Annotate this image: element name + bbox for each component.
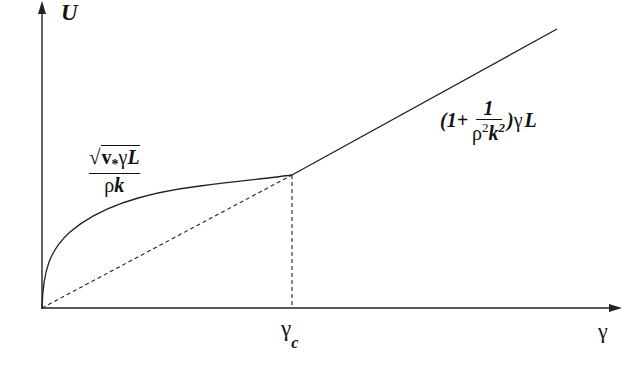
sqrt-radicand: v*γL [101,145,140,168]
y-axis-arrow-icon [38,1,46,14]
sqrt-branch-annotation: √v*γL ρk [89,146,140,196]
linear-denominator: ρ2k2 [472,120,505,144]
sqrt-numerator: √v*γL [89,146,140,173]
x-axis-arrow-icon [609,304,622,312]
linear-numerator: 1 [476,98,502,120]
x-axis-label: γ [598,318,608,344]
y-axis-label: U [61,0,78,26]
gamma-c-subscript: c [291,334,298,351]
gamma-c-symbol: γ [281,316,291,341]
linear-fraction: 1 ρ2k2 [472,98,505,144]
sqrt-denominator: ρk [104,174,124,196]
sqrt-radical-icon: √ [89,145,101,169]
gamma-c-label: γc [281,316,298,346]
sqrt-fraction: √v*γL ρk [89,146,140,196]
dashed-reference-line [42,175,292,308]
linear-branch-annotation: (1+ 1 ρ2k2 )γL [440,98,537,144]
